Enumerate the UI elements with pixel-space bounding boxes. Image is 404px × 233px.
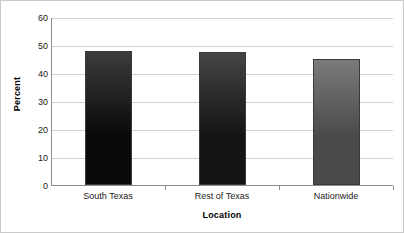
y-axis-tick-label: 20 (38, 125, 48, 135)
bar (199, 52, 246, 185)
x-axis-tick-label: South Texas (83, 191, 132, 201)
y-axis-tick-label: 40 (38, 69, 48, 79)
plot-area (51, 18, 393, 186)
x-axis-tickmark (393, 186, 394, 190)
y-axis-title-label: Percent (12, 76, 22, 110)
y-axis-tick-label: 0 (43, 181, 48, 191)
y-axis-tick-label: 50 (38, 41, 48, 51)
bar (313, 59, 360, 185)
bar-chart: Percent 0102030405060 South TexasRest of… (0, 0, 404, 233)
bar (85, 51, 132, 185)
y-axis-title: Percent (10, 1, 24, 186)
x-axis-tick-labels: South TexasRest of TexasNationwide (51, 191, 393, 207)
y-axis-tick-labels: 0102030405060 (25, 1, 48, 233)
x-axis-tickmark (279, 186, 280, 190)
x-axis-title: Location (51, 210, 393, 220)
x-axis-tick-label: Rest of Texas (195, 191, 249, 201)
bar-series (51, 18, 393, 186)
x-axis-tick-label: Nationwide (314, 191, 359, 201)
y-axis-tick-label: 30 (38, 97, 48, 107)
y-axis-tick-label: 60 (38, 13, 48, 23)
y-axis-tick-label: 10 (38, 153, 48, 163)
x-axis-tickmark (165, 186, 166, 190)
